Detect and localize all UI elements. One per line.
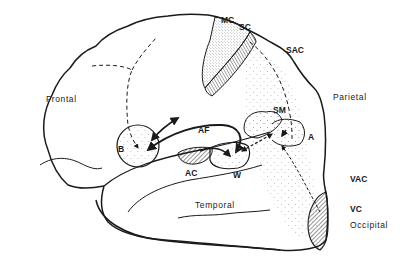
label-sac: SAC — [286, 45, 304, 55]
label-frontal: Frontal — [46, 94, 77, 104]
label-mc: MC — [221, 15, 234, 25]
temporal-lobe-outline — [101, 186, 280, 250]
label-temporal: Temporal — [195, 200, 235, 210]
label-vc: VC — [350, 204, 362, 214]
label-sm: SM — [273, 105, 286, 115]
label-af: AF — [198, 125, 209, 135]
b-to-mc-arrow — [152, 118, 178, 140]
label-occipital: Occipital — [350, 220, 388, 230]
label-ac: AC — [185, 168, 197, 178]
auditory-cortex-region — [178, 147, 212, 164]
temporal-lower-sulcus — [178, 210, 270, 218]
label-sc: SC — [239, 22, 251, 32]
frontal-sulcus — [40, 158, 102, 168]
label-w: W — [233, 170, 242, 180]
label-parietal: Parietal — [333, 92, 367, 102]
label-vac: VAC — [350, 174, 367, 184]
brain-language-diagram: Frontal Parietal Temporal Occipital MC S… — [0, 0, 407, 262]
angular-gyrus-area — [272, 119, 305, 146]
label-b: B — [118, 144, 124, 154]
label-a: A — [308, 132, 314, 142]
upper-dashed-branch — [132, 38, 156, 70]
